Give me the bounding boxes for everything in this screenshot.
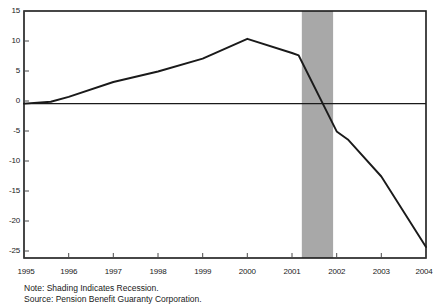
x-tick-label-2001: 2001 (272, 268, 312, 276)
x-tick-label-1997: 1997 (93, 268, 133, 276)
recession-shading-region (302, 11, 333, 258)
x-tick-label-1999: 1999 (183, 268, 223, 276)
x-tick-label-2003: 2003 (361, 268, 401, 276)
x-tick-label-2000: 2000 (227, 268, 267, 276)
line-chart-plot (0, 0, 440, 307)
y-tick-label-15: 15 (0, 7, 20, 15)
x-tick-label-2002: 2002 (317, 268, 357, 276)
x-tick-label-1998: 1998 (138, 268, 178, 276)
x-tick-label-2004: 2004 (404, 268, 440, 276)
x-tick-label-1995: 1995 (6, 268, 46, 276)
y-tick-label-neg15: -15 (0, 187, 20, 195)
chart-container: 15 10 5 0 -5 -10 -15 -20 -25 1995 1996 1… (0, 0, 440, 307)
x-tick-label-1996: 1996 (49, 268, 89, 276)
y-tick-label-0: 0 (0, 97, 20, 105)
y-tick-label-neg5: -5 (0, 127, 20, 135)
data-series-line (24, 39, 426, 247)
y-tick-label-neg20: -20 (0, 217, 20, 225)
y-tick-label-neg10: -10 (0, 157, 20, 165)
y-tick-label-10: 10 (0, 37, 20, 45)
y-tick-label-neg25: -25 (0, 247, 20, 255)
y-tick-label-5: 5 (0, 67, 20, 75)
chart-source: Source: Pension Benefit Guaranty Corpora… (24, 294, 202, 304)
chart-note: Note: Shading Indicates Recession. (24, 283, 159, 293)
